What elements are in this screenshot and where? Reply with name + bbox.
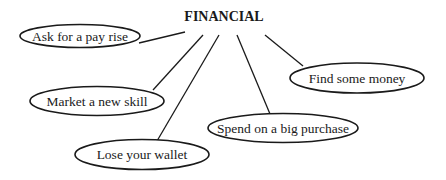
node-new-skill: Market a new skill bbox=[30, 87, 164, 116]
node-big-purchase: Spend on a big purchase bbox=[208, 114, 358, 143]
connector-new-skill bbox=[153, 35, 203, 90]
connector-big-purchase bbox=[237, 35, 270, 114]
node-label: Ask for a pay rise bbox=[32, 29, 128, 44]
node-label: Lose your wallet bbox=[97, 147, 188, 162]
node-label: Find some money bbox=[309, 71, 406, 86]
connector-find-money bbox=[265, 35, 303, 66]
node-pay-rise: Ask for a pay rise bbox=[20, 25, 140, 48]
diagram-title: FINANCIAL bbox=[184, 9, 263, 24]
node-find-money: Find some money bbox=[290, 63, 424, 93]
connector-pay-rise bbox=[139, 32, 185, 43]
node-label: Market a new skill bbox=[47, 94, 148, 109]
node-label: Spend on a big purchase bbox=[217, 121, 349, 136]
financial-mind-map: FINANCIAL Ask for a pay rise Market a ne… bbox=[0, 0, 446, 180]
node-lose-wallet: Lose your wallet bbox=[75, 140, 209, 170]
